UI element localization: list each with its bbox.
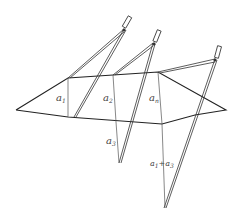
- compass-3: [158, 46, 221, 208]
- label-a1-plus-a3: a1+a3: [150, 159, 174, 169]
- segments: [68, 72, 162, 124]
- label-a1: a1: [56, 92, 66, 104]
- compass-sum-diagram: a1 a2 an a3 a1+a3: [0, 0, 240, 213]
- label-a3: a3: [106, 135, 116, 147]
- label-an: an: [149, 92, 159, 104]
- label-a2: a2: [103, 92, 113, 104]
- compass-1: [68, 16, 132, 117]
- polygon: [16, 72, 226, 124]
